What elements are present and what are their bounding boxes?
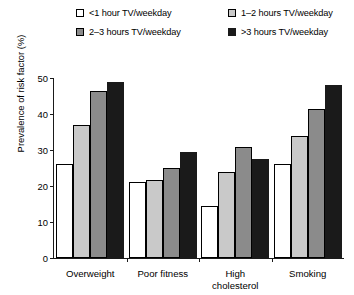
bar — [252, 159, 269, 258]
legend-swatch-1-2-hours — [228, 9, 236, 17]
bar-group — [201, 78, 269, 258]
x-axis-category-label-line: High — [212, 268, 258, 280]
x-axis-category-label-line: Poor fitness — [137, 268, 188, 280]
y-axis-tick-label: 20 — [38, 181, 48, 192]
y-axis-tick — [50, 114, 54, 115]
y-axis-tick — [50, 78, 54, 79]
chart-plot-area: 01020304050OverweightPoor fitnessHighcho… — [53, 78, 344, 259]
bar — [90, 91, 107, 258]
y-axis-title: Prevalence of risk factor (%) — [15, 4, 26, 184]
legend-label-2-3-hours: 2–3 hours TV/weekday — [89, 27, 181, 37]
x-axis-category-label-line: Smoking — [289, 268, 326, 280]
legend-label-1-2-hours: 1–2 hours TV/weekday — [241, 8, 333, 18]
y-axis-tick-label: 0 — [43, 253, 48, 264]
legend-item-gt3-hours: >3 hours TV/weekday — [228, 27, 328, 37]
legend-swatch-gt3-hours — [228, 28, 236, 36]
legend-label-lt1-hour: <1 hour TV/weekday — [89, 8, 172, 18]
bar — [73, 125, 90, 258]
bar — [146, 180, 163, 258]
y-axis-tick-label: 40 — [38, 109, 48, 120]
bar — [107, 82, 124, 258]
legend-swatch-2-3-hours — [76, 28, 84, 36]
y-axis-tick — [50, 186, 54, 187]
bar — [56, 164, 73, 258]
bar — [129, 182, 146, 258]
x-axis-category-label-line: Overweight — [66, 268, 115, 280]
x-axis-tick — [127, 258, 128, 262]
x-axis-category-label: Overweight — [66, 268, 115, 280]
y-axis-tick-label: 30 — [38, 145, 48, 156]
bar — [291, 136, 308, 258]
bar-group — [56, 78, 124, 258]
y-axis-tick — [50, 150, 54, 151]
bar — [325, 85, 342, 258]
x-axis-category-label: Highcholesterol — [212, 268, 258, 291]
bar — [235, 147, 252, 258]
bar — [163, 168, 180, 258]
legend-item-1-2-hours: 1–2 hours TV/weekday — [228, 8, 333, 18]
y-axis-tick-label: 50 — [38, 73, 48, 84]
y-axis-tick — [50, 258, 54, 259]
y-axis-tick — [50, 222, 54, 223]
bar-group — [129, 78, 197, 258]
x-axis-tick — [272, 258, 273, 262]
x-axis-tick — [199, 258, 200, 262]
legend-item-lt1-hour: <1 hour TV/weekday — [76, 8, 172, 18]
x-axis-category-label: Smoking — [289, 268, 326, 280]
bar — [308, 109, 325, 258]
bar — [201, 206, 218, 258]
legend-item-2-3-hours: 2–3 hours TV/weekday — [76, 27, 181, 37]
legend-label-gt3-hours: >3 hours TV/weekday — [241, 27, 328, 37]
y-axis-tick-label: 10 — [38, 217, 48, 228]
bar — [218, 172, 235, 258]
bar-group — [274, 78, 342, 258]
legend-swatch-lt1-hour — [76, 9, 84, 17]
bar — [274, 164, 291, 258]
bar — [180, 152, 197, 258]
chart-legend: <1 hour TV/weekday 1–2 hours TV/weekday … — [76, 8, 348, 46]
x-axis-category-label: Poor fitness — [137, 268, 188, 280]
x-axis-category-label-line: cholesterol — [212, 280, 258, 292]
